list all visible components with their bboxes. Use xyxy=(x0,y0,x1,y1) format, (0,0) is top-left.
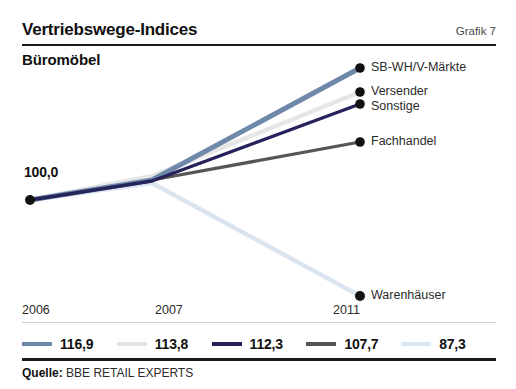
footer-divider xyxy=(22,358,496,361)
series-label-versender: Versender xyxy=(371,84,428,98)
series-line-sb-wh-v-maerkte xyxy=(30,68,360,200)
legend-item: 116,9 xyxy=(22,336,117,352)
legend-value: 87,3 xyxy=(439,336,465,352)
legend-item: 112,3 xyxy=(212,336,307,352)
data-point-warenhaeuser xyxy=(355,291,365,301)
legend-swatch-icon xyxy=(117,342,147,346)
data-point-sonstige xyxy=(355,99,365,109)
legend-value: 112,3 xyxy=(250,336,283,352)
series-line-versender xyxy=(30,92,360,200)
source-label: Quelle: xyxy=(22,366,63,380)
x-tick-2007: 2007 xyxy=(155,303,183,317)
series-label-fachhandel: Fachhandel xyxy=(371,134,436,148)
data-point-versender xyxy=(355,87,365,97)
chart-figure: Vertriebswege-Indices Grafik 7 Büromöbel xyxy=(0,0,516,389)
legend-item: 107,7 xyxy=(306,336,401,352)
source-text: BBE RETAIL EXPERTS xyxy=(66,366,193,380)
legend-swatch-icon xyxy=(401,342,431,346)
data-point-start xyxy=(25,195,35,205)
series-label-sonstige: Sonstige xyxy=(371,99,420,113)
legend-swatch-icon xyxy=(212,342,242,346)
data-point-fachhandel xyxy=(355,137,365,147)
legend-item: 87,3 xyxy=(401,336,496,352)
legend-value: 116,9 xyxy=(60,336,93,352)
legend-item: 113,8 xyxy=(117,336,212,352)
plot-area: 100,0 SB-WH/V-Märkte Versender Sonstige … xyxy=(0,0,516,389)
x-tick-2006: 2006 xyxy=(22,303,50,317)
series-line-warenhaeuser xyxy=(30,183,360,296)
line-chart-svg xyxy=(0,0,516,389)
legend-swatch-icon xyxy=(306,342,336,346)
start-value-label: 100,0 xyxy=(24,164,58,180)
source-line: Quelle: BBE RETAIL EXPERTS xyxy=(22,366,193,380)
series-label-warenhaeuser: Warenhäuser xyxy=(371,288,446,302)
x-tick-2011: 2011 xyxy=(333,303,360,317)
axis-divider xyxy=(22,322,496,323)
chart-legend: 116,9 113,8 112,3 107,7 87,3 xyxy=(22,333,496,355)
series-label-sb-wh-v-maerkte: SB-WH/V-Märkte xyxy=(371,60,466,74)
data-point-sb-wh-v-maerkte xyxy=(355,63,365,73)
legend-value: 113,8 xyxy=(155,336,188,352)
legend-value: 107,7 xyxy=(344,336,378,352)
legend-swatch-icon xyxy=(22,342,52,346)
